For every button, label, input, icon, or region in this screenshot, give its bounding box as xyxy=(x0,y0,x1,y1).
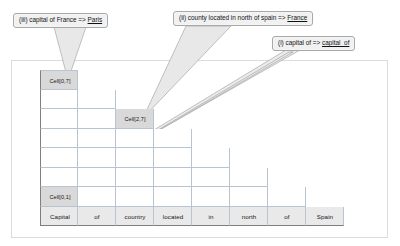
token-cell[interactable]: country xyxy=(116,207,154,227)
chart-row: Cell[0,1] xyxy=(40,187,344,207)
chart-cell[interactable] xyxy=(154,129,192,149)
chart-cell[interactable] xyxy=(192,187,230,207)
token-cell[interactable]: located xyxy=(154,207,192,227)
callout-i-value: capital_of xyxy=(322,39,349,46)
token-label: Spain xyxy=(306,207,344,227)
chart-cell[interactable] xyxy=(154,168,192,188)
token-cell[interactable]: of xyxy=(78,207,116,227)
chart-cell[interactable] xyxy=(40,129,78,149)
labeled-cell[interactable]: Cell[0,1] xyxy=(40,187,78,207)
callout-i-text: (i) capital of => xyxy=(278,39,322,46)
chart-cell[interactable] xyxy=(78,109,116,129)
chart-cell[interactable] xyxy=(230,187,268,207)
chart-cell[interactable] xyxy=(192,148,230,168)
cell-id-label: Cell[0,1] xyxy=(41,187,79,207)
chart-cell[interactable] xyxy=(154,148,192,168)
token-label: country xyxy=(116,207,154,227)
chart-cell[interactable] xyxy=(230,168,268,188)
chart-cell[interactable] xyxy=(116,168,154,188)
token-label: located xyxy=(154,207,192,227)
chart-cell[interactable] xyxy=(78,90,116,110)
token-label: Capital xyxy=(41,207,79,227)
chart-cell[interactable] xyxy=(78,148,116,168)
token-label: of xyxy=(78,207,116,227)
token-cell[interactable]: in xyxy=(192,207,230,227)
chart-row xyxy=(40,148,344,168)
cell-id-label: Cell[0,7] xyxy=(41,71,79,91)
chart-cell[interactable] xyxy=(116,129,154,149)
token-label: in xyxy=(192,207,230,227)
chart-row xyxy=(40,90,344,110)
chart-cell[interactable] xyxy=(40,168,78,188)
callout-iii[interactable]: (iii) capital of France => Paris xyxy=(13,13,108,28)
cell-id-label: Cell[2,7] xyxy=(116,109,154,129)
chart-cell[interactable] xyxy=(268,187,306,207)
callout-iii-text: (iii) capital of France => xyxy=(19,16,88,23)
chart-row: CapitalofcountrylocatedinnorthofSpain xyxy=(40,207,344,227)
chart-cell[interactable] xyxy=(78,168,116,188)
token-cell[interactable]: north xyxy=(230,207,268,227)
chart-cell[interactable] xyxy=(154,187,192,207)
callout-ii[interactable]: (ii) county located in north of spain =>… xyxy=(173,11,313,26)
token-cell[interactable]: Capital xyxy=(40,207,78,227)
figure-canvas: (iii) capital of France => Paris (ii) co… xyxy=(0,0,400,246)
token-label: north xyxy=(230,207,268,227)
callout-ii-text: (ii) county located in north of spain => xyxy=(179,14,287,21)
chart-row xyxy=(40,129,344,149)
labeled-cell[interactable]: Cell[0,7] xyxy=(40,70,78,90)
callout-ii-value: France xyxy=(287,14,307,21)
chart-cell[interactable] xyxy=(78,187,116,207)
chart-cell[interactable] xyxy=(116,148,154,168)
chart-cell[interactable] xyxy=(192,168,230,188)
chart-row xyxy=(40,168,344,188)
chart-row: Cell[0,7] xyxy=(40,70,344,90)
token-cell[interactable]: of xyxy=(268,207,306,227)
labeled-cell[interactable]: Cell[2,7] xyxy=(116,109,154,129)
callout-i[interactable]: (i) capital of => capital_of xyxy=(272,36,355,51)
chart-cell[interactable] xyxy=(40,109,78,129)
cyk-chart-grid: Cell[0,7]Cell[2,7]Cell[0,1]Capitalofcoun… xyxy=(40,70,344,226)
chart-cell[interactable] xyxy=(78,129,116,149)
chart-cell[interactable] xyxy=(40,90,78,110)
chart-cell[interactable] xyxy=(40,148,78,168)
callout-iii-value: Paris xyxy=(88,16,103,23)
token-cell[interactable]: Spain xyxy=(306,207,344,227)
chart-cell[interactable] xyxy=(116,187,154,207)
chart-row: Cell[2,7] xyxy=(40,109,344,129)
token-label: of xyxy=(268,207,306,227)
